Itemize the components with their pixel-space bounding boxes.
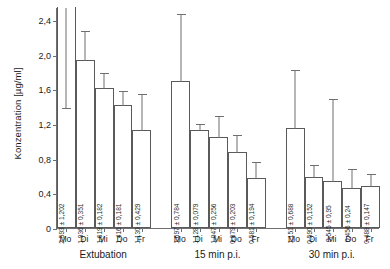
error-bar	[180, 14, 181, 82]
bar: 1,047 ± 0,256	[209, 137, 228, 228]
x-axis-tick	[352, 228, 353, 232]
x-axis-tick	[371, 228, 372, 232]
x-axis-category-label: Di	[309, 234, 317, 244]
x-axis-category-label: Di	[80, 234, 88, 244]
error-bar-cap	[310, 165, 319, 166]
bar: 1,151 ± 0,688	[286, 128, 305, 228]
x-axis-tick	[104, 228, 105, 232]
bar: 0,590 ± 0,152	[305, 177, 324, 228]
error-bar	[370, 174, 371, 187]
x-axis-category-label: Fr	[251, 234, 259, 244]
x-axis-category-label: Di	[195, 234, 203, 244]
y-axis-tick-label: 1,2	[38, 120, 51, 130]
error-bar-cap	[81, 31, 90, 32]
error-bar-cap	[215, 116, 224, 117]
x-axis-tick	[123, 228, 124, 232]
x-axis-tick	[142, 228, 143, 232]
y-axis-tick-label: 0,4	[38, 189, 51, 199]
bar: 1,128 ± 0,079	[190, 130, 209, 228]
error-bar-cap	[138, 94, 147, 95]
error-bar	[351, 169, 352, 190]
plot-area: 00,40,81,21,62,02,42,593 ± 1,2021,936 ± …	[56, 8, 379, 229]
error-bar-cap	[252, 162, 261, 163]
y-axis-tick-label: 1,6	[38, 85, 51, 95]
error-bar	[199, 124, 200, 131]
y-axis-tick-label: 0,8	[38, 155, 51, 165]
bar: 1,697 ± 0,784	[171, 81, 190, 228]
error-bar-cap	[196, 124, 205, 125]
x-axis-category-label: Mo	[174, 234, 186, 244]
x-axis-tick	[295, 228, 296, 232]
error-bar-cap	[329, 99, 338, 100]
y-axis-tick-label: 2,4	[38, 16, 51, 26]
x-axis-tick	[219, 228, 220, 232]
error-bar	[332, 99, 333, 181]
error-bar	[141, 94, 142, 131]
error-bar	[313, 165, 314, 178]
x-axis-tick	[237, 228, 238, 232]
group-label: Extubation	[80, 249, 127, 260]
y-axis-title: Konzentration [µg/ml]	[12, 39, 23, 189]
error-bar-cap	[348, 169, 357, 170]
x-axis-tick	[66, 228, 67, 232]
x-axis-tick	[200, 228, 201, 232]
error-bar	[66, 8, 67, 108]
group-label: 15 min p.i.	[194, 249, 240, 260]
bar: 0,488 ± 0,147	[361, 186, 380, 228]
bar: 0,456 ± 0,24	[342, 188, 361, 228]
error-bar-cap	[119, 91, 128, 92]
x-axis-category-label: Mi	[327, 234, 336, 244]
x-axis-category-label: Mo	[59, 234, 71, 244]
bar: 0,545 ± 0,95	[323, 181, 342, 228]
x-axis-tick	[314, 228, 315, 232]
x-axis-tick	[85, 228, 86, 232]
bar: 0,879 ± 0,203	[228, 152, 247, 228]
bar: 1,130 ± 0,429	[132, 130, 151, 228]
x-axis-tick	[181, 228, 182, 232]
x-axis-category-label: Do	[117, 234, 128, 244]
error-bar-cap	[100, 73, 109, 74]
x-axis-category-label: Fr	[137, 234, 145, 244]
error-bar	[256, 162, 257, 179]
error-bar-cap	[62, 108, 71, 109]
error-bar	[218, 116, 219, 138]
y-axis-tick-label: 0	[46, 224, 51, 234]
error-bar-cap	[367, 174, 376, 175]
error-bar	[85, 31, 86, 61]
x-axis-category-label: Mo	[288, 234, 300, 244]
bar: 1,416 ± 0,181	[114, 105, 133, 228]
y-axis-tick-label: 2,0	[38, 51, 51, 61]
x-axis-category-label: Fr	[366, 234, 374, 244]
group-label: 30 min p.i.	[309, 249, 355, 260]
x-axis-tick	[256, 228, 257, 232]
x-axis-category-label: Mi	[99, 234, 108, 244]
y-axis-tick	[53, 229, 57, 230]
bar: 0,581 ± 0,194	[247, 178, 266, 228]
error-bar-cap	[233, 135, 242, 136]
bar: 1,936 ± 0,351	[76, 60, 95, 228]
x-axis-tick	[333, 228, 334, 232]
error-bar	[237, 135, 238, 153]
error-bar	[123, 91, 124, 107]
error-bar	[295, 70, 296, 130]
x-axis-category-label: Do	[231, 234, 242, 244]
x-axis-category-label: Do	[345, 234, 356, 244]
error-bar-cap	[291, 70, 300, 71]
bar-chart: Konzentration [µg/ml] 00,40,81,21,62,02,…	[0, 0, 390, 269]
error-bar	[104, 73, 105, 89]
bar: 1,619 ± 0,182	[95, 88, 114, 228]
error-bar-cap	[177, 14, 186, 15]
x-axis-category-label: Mi	[213, 234, 222, 244]
